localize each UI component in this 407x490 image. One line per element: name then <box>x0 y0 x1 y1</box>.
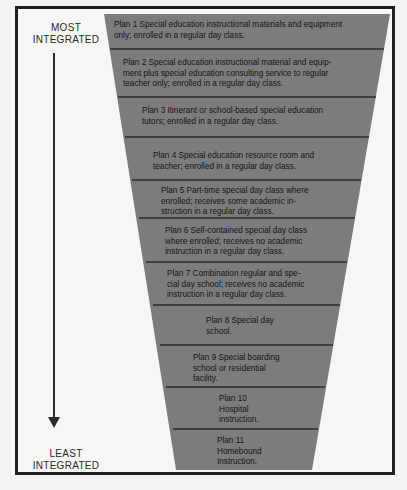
text-line: Plan 6 Self-contained special day class <box>165 226 307 237</box>
plan-4-text: Plan 4 Special education resource room a… <box>153 151 314 172</box>
text-line: enrolled; receives some academic in- <box>161 197 308 208</box>
plan-9-text: Plan 9 Special boarding school or reside… <box>193 353 280 385</box>
text-line: Plan 1 Special education instructional m… <box>114 20 342 31</box>
text-line: Plan 11 <box>217 436 262 447</box>
text-line: Plan 4 Special education resource room a… <box>153 151 314 162</box>
text-line: teacher only; enrolled in a regular day … <box>123 79 331 90</box>
text-line: Plan 7 Combination regular and spe- <box>167 269 304 280</box>
text-line: Instruction. <box>217 457 262 468</box>
text-line: instruction in a regular day class. <box>165 247 307 258</box>
text-line: Hospital <box>219 405 259 416</box>
plan-6-text: Plan 6 Self-contained special day class … <box>165 226 307 258</box>
plan-7-text: Plan 7 Combination regular and spe- cial… <box>167 269 304 301</box>
plan-10-text: Plan 10 Hospital instruction. <box>219 394 259 426</box>
text-line: Plan 5 Part-time special day class where <box>161 186 308 197</box>
text-line: Plan 2 Special education instructional m… <box>123 58 331 69</box>
text-line: where enrolled; receives no academic <box>165 237 307 248</box>
text-line: facility. <box>193 374 280 385</box>
text-line: cial day school; receives no academic <box>167 280 304 291</box>
plan-11-text: Plan 11 Homebound Instruction. <box>217 436 262 468</box>
plan-3-text: Plan 3 Itinerant or school-based special… <box>142 106 323 127</box>
text-line: school. <box>206 327 274 338</box>
text-line: ment plus special education consulting s… <box>123 69 331 80</box>
plan-5-text: Plan 5 Part-time special day class where… <box>161 186 308 218</box>
text-line: Homebound <box>217 447 262 458</box>
text-line: only; enrolled in a regular day class. <box>114 31 342 42</box>
text-line: instruction. <box>219 415 259 426</box>
text-line: Plan 9 Special boarding <box>193 353 280 364</box>
text-line: instruction in a regular day class. <box>167 290 304 301</box>
text-line: school or residential <box>193 364 280 375</box>
plan-2-text: Plan 2 Special education instructional m… <box>123 58 331 90</box>
plan-1-text: Plan 1 Special education instructional m… <box>114 20 342 41</box>
text-line: struction in a regular day class. <box>161 207 308 218</box>
plan-8-text: Plan 8 Special day school. <box>206 316 274 337</box>
text-line: tutors; enrolled in a regular day class. <box>142 117 323 128</box>
text-line: Plan 3 Itinerant or school-based special… <box>142 106 323 117</box>
text-line: teacher; enrolled in a regular day class… <box>153 162 314 173</box>
text-line: Plan 8 Special day <box>206 316 274 327</box>
text-line: Plan 10 <box>219 394 259 405</box>
